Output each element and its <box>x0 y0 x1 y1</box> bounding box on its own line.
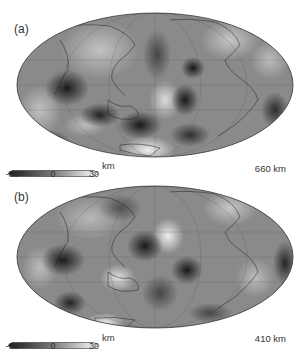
panel-a: (a) km -30 0 30 660 km <box>0 0 308 178</box>
colorbar: km -30 0 30 <box>8 335 100 342</box>
colorbar-ticks: -30 0 30 <box>8 341 98 353</box>
tick-min: -30 <box>5 341 18 351</box>
panel-label: (a) <box>14 22 29 36</box>
colorbar-unit: km <box>102 332 115 343</box>
tick-mid: 0 <box>50 341 55 351</box>
global-topography-map-410 <box>0 178 308 358</box>
panel-label: (b) <box>14 190 29 204</box>
colorbar: km -30 0 30 <box>8 163 100 170</box>
panel-b: (b) km -30 0 30 410 km <box>0 178 308 358</box>
global-topography-map-660 <box>0 0 308 178</box>
tick-max: 30 <box>89 341 99 351</box>
depth-label: 410 km <box>255 333 286 344</box>
depth-label: 660 km <box>255 163 286 174</box>
colorbar-unit: km <box>102 160 115 171</box>
